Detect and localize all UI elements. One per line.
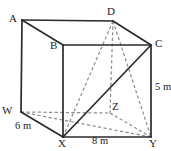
width-label: 8 m (92, 135, 108, 146)
edge-A-W (21, 20, 22, 112)
vertex-label-z: Z (112, 101, 119, 112)
height-label: 5 m (155, 81, 171, 92)
edge-W-Z (21, 112, 110, 113)
hidden-edges-group (21, 21, 151, 137)
vertex-label-w: W (2, 105, 12, 116)
diagonal-D-X (63, 21, 113, 137)
vertex-label-c: C (155, 38, 162, 49)
geometry-figure: ABCDWXYZ 6 m8 m5 m (0, 0, 171, 151)
edge-A-D (22, 20, 113, 21)
depth-label: 6 m (15, 120, 31, 131)
edge-D-C (113, 21, 151, 45)
vertex-label-d: D (107, 6, 115, 17)
edge-Z-Y (110, 113, 151, 137)
solid-edges-group (21, 20, 151, 137)
vertex-label-b: B (50, 40, 57, 51)
vertex-label-a: A (9, 13, 17, 24)
vertex-label-x: X (58, 138, 66, 149)
vertex-label-y: Y (149, 138, 157, 149)
diagonal-X-C (63, 45, 151, 137)
